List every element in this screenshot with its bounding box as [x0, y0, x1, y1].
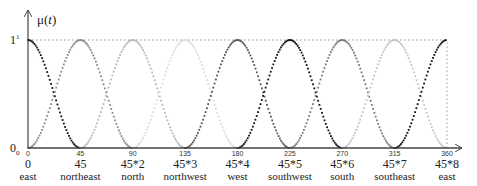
x-tick-45: 4545northeast — [60, 150, 100, 182]
curve-225 — [237, 39, 343, 149]
x-tick-multiple: 45*3 — [173, 157, 197, 171]
curve-45 — [27, 39, 133, 149]
x-tick-multiple: 45*7 — [383, 157, 407, 171]
x-tick-direction: northeast — [60, 170, 100, 182]
x-tick-multiple: 0 — [25, 157, 31, 171]
x-tick-0: 00east — [19, 150, 36, 182]
x-tick-degree: 0 — [26, 150, 30, 157]
x-tick-90: 9045*2north — [121, 150, 145, 182]
x-tick-degree: 90 — [129, 150, 137, 157]
x-tick-multiple: 45*2 — [121, 157, 145, 171]
membership-function-chart: μ(t) 0011 00east4545northeast9045*2north… — [0, 0, 477, 186]
x-tick-270: 27045*6south — [330, 150, 354, 182]
x-tick-360: 36045*8east — [435, 150, 459, 182]
x-tick-direction: north — [121, 170, 145, 182]
x-tick-direction: southwest — [268, 170, 312, 182]
curve-180 — [184, 39, 290, 149]
x-tick-multiple: 45*6 — [330, 157, 354, 171]
x-tick-direction: east — [438, 170, 455, 182]
x-tick-degree: 180 — [232, 150, 244, 157]
curve-0 — [27, 39, 80, 149]
x-tick-degree: 225 — [284, 150, 296, 157]
x-tick-multiple: 45*5 — [278, 157, 302, 171]
x-tick-degree: 315 — [389, 150, 401, 157]
membership-curves — [27, 39, 447, 149]
curve-135 — [132, 39, 238, 149]
x-tick-multiple: 45*8 — [435, 157, 459, 171]
x-tick-multiple: 45*4 — [226, 157, 250, 171]
reference-lines — [28, 40, 447, 148]
x-tick-direction: northwest — [163, 170, 206, 182]
y-tick-labels: 0011 — [10, 33, 20, 157]
curve-360 — [394, 39, 447, 149]
x-tick-multiple: 45 — [74, 157, 86, 171]
x-tick-direction: east — [19, 170, 36, 182]
curve-270 — [289, 39, 395, 149]
x-tick-labels: 00east4545northeast9045*2north13545*3nor… — [19, 150, 459, 182]
x-tick-degree: 135 — [179, 150, 191, 157]
y-tick-0: 00 — [10, 141, 20, 157]
x-tick-315: 31545*7southeast — [374, 150, 415, 182]
x-tick-225: 22545*5southwest — [268, 150, 312, 182]
x-tick-direction: west — [227, 170, 247, 182]
y-tick-1: 11 — [10, 33, 20, 47]
x-tick-degree: 45 — [76, 150, 84, 157]
x-tick-direction: southeast — [374, 170, 415, 182]
x-tick-direction: south — [330, 170, 354, 182]
x-tick-135: 13545*3northwest — [163, 150, 206, 182]
y-axis-label: μ(t) — [37, 12, 56, 27]
curve-315 — [341, 39, 447, 149]
curve-90 — [79, 39, 185, 149]
x-tick-180: 18045*4west — [226, 150, 250, 182]
x-tick-degree: 360 — [441, 150, 453, 157]
x-tick-degree: 270 — [336, 150, 348, 157]
